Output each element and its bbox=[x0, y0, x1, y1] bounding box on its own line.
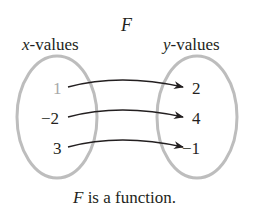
range-value-3: −1 bbox=[182, 140, 200, 157]
range-value-2: 4 bbox=[192, 110, 201, 127]
caption: F is a function. bbox=[73, 189, 176, 206]
caption-variable: F bbox=[73, 188, 83, 207]
function-name-title: F bbox=[121, 16, 132, 34]
arrow-3-to-neg1 bbox=[68, 140, 183, 147]
domain-label: x-values bbox=[22, 36, 79, 53]
domain-label-text: -values bbox=[30, 35, 79, 54]
range-label-text: -values bbox=[171, 35, 220, 54]
domain-value-3: 3 bbox=[53, 140, 62, 157]
range-label: y-values bbox=[163, 36, 220, 53]
range-label-variable: y bbox=[163, 35, 171, 54]
domain-label-variable: x bbox=[22, 35, 30, 54]
domain-value-2: −2 bbox=[41, 110, 59, 127]
domain-value-1: 1 bbox=[53, 80, 62, 97]
caption-text: is a function. bbox=[83, 188, 176, 207]
arrow-neg2-to-4 bbox=[68, 110, 183, 117]
range-value-1: 2 bbox=[192, 80, 201, 97]
